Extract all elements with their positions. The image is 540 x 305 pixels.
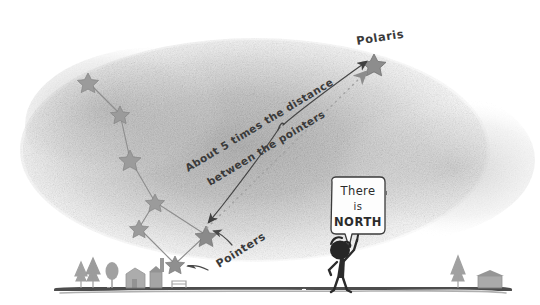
star-merak-pointer bbox=[165, 256, 184, 274]
pointers-arrow-to-merak bbox=[188, 266, 208, 270]
bubble-line-2: is bbox=[354, 201, 363, 212]
horizon-ground bbox=[56, 288, 510, 294]
sky-illustration-svg: About 5 times the distance between the p… bbox=[0, 0, 540, 305]
barn bbox=[149, 258, 164, 288]
bubble-line-3: NORTH bbox=[334, 215, 382, 229]
bubble-line-1: There bbox=[340, 184, 376, 198]
landscape-silhouettes bbox=[75, 256, 504, 288]
conifer-tree bbox=[451, 256, 465, 288]
round-tree bbox=[106, 262, 119, 288]
polaris-label: Polaris bbox=[355, 27, 405, 48]
night-sky bbox=[20, 38, 535, 262]
illustration-canvas: About 5 times the distance between the p… bbox=[0, 0, 540, 305]
house bbox=[476, 270, 504, 288]
conifer-tree bbox=[75, 262, 87, 288]
house bbox=[126, 268, 145, 288]
conifer-tree bbox=[86, 258, 100, 288]
